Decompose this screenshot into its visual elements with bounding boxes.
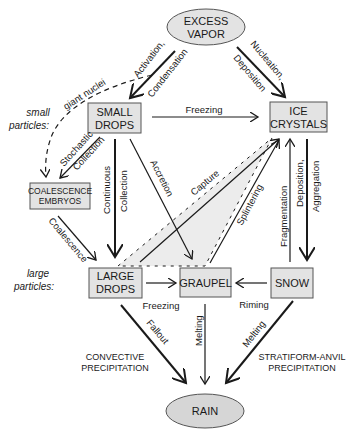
edge-label-riming: Riming xyxy=(239,299,269,310)
edge-label-deposition2: Deposition, xyxy=(294,159,305,207)
node-excess-vapor: EXCESS VAPOR xyxy=(167,9,245,45)
large-particles-label: particles: xyxy=(13,281,54,292)
node-graupel: GRAUPEL xyxy=(179,268,232,297)
node-label: SMALL xyxy=(96,106,132,118)
node-label: RAIN xyxy=(192,405,218,417)
edge-label-aggregation: Aggregation xyxy=(310,161,321,212)
node-label: DROPS xyxy=(95,119,134,131)
caption-stratiform: PRECIPITATION xyxy=(268,363,336,373)
small-particles-label: particles: xyxy=(8,120,49,131)
edge-label-continuous-collection: Collection xyxy=(118,170,129,212)
edge-label-continuous: Continuous xyxy=(101,166,112,214)
node-label: CRYSTALS xyxy=(270,118,327,130)
node-label: DROPS xyxy=(96,283,135,295)
edge-label-freezing-bottom: Freezing xyxy=(143,300,180,311)
node-large-drops: LARGE DROPS xyxy=(89,268,142,298)
node-label: VAPOR xyxy=(187,28,225,40)
node-label: GRAUPEL xyxy=(179,277,232,289)
edge-label-melting-center: Melting xyxy=(193,315,204,346)
node-label: COALESCENCE xyxy=(28,186,93,196)
edge-label-fallout: Fallout xyxy=(144,317,171,346)
node-label: EXCESS xyxy=(184,15,229,27)
node-label: LARGE xyxy=(97,270,134,282)
edge-label-fragmentation: Fragmentation xyxy=(278,186,289,247)
large-particles-label: large xyxy=(27,268,50,279)
caption-convective: CONVECTIVE xyxy=(86,352,145,362)
node-label: EMBRYOS xyxy=(39,196,82,206)
small-particles-label: small xyxy=(26,107,50,118)
node-coalescence-embryos: COALESCENCE EMBRYOS xyxy=(28,183,93,209)
node-small-drops: SMALL DROPS xyxy=(88,103,141,133)
edge-label-melting-right: Melting xyxy=(240,318,268,349)
node-snow: SNOW xyxy=(271,268,313,298)
edge-label-freezing-top: Freezing xyxy=(186,104,223,115)
edge-label-coalescence: Coalescence xyxy=(46,215,90,264)
edge-label-accretion: Accretion xyxy=(148,158,176,198)
node-label: SNOW xyxy=(275,277,310,289)
node-label: ICE xyxy=(289,105,307,117)
node-rain: RAIN xyxy=(166,394,244,428)
caption-convective: PRECIPITATION xyxy=(81,363,149,373)
microphysics-diagram: EXCESS VAPOR SMALL DROPS ICE CRYSTALS CO… xyxy=(0,0,358,435)
node-ice-crystals: ICE CRYSTALS xyxy=(270,102,327,132)
caption-stratiform: STRATIFORM-ANVIL xyxy=(259,352,346,362)
